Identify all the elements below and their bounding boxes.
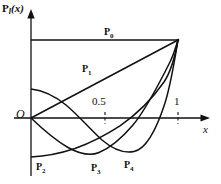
curve-label-p3: P3 [91, 163, 101, 176]
curve-label-p0-sub: 0 [110, 32, 114, 40]
legendre-polynomial-figure: Pl(x) x O 0.5 1 P0 P1 P2 P3 P4 [0, 0, 221, 184]
curve-label-p4: P4 [124, 160, 134, 173]
y-axis-label: Pl(x) [2, 3, 24, 16]
curve-label-p1-sub: 1 [88, 69, 92, 77]
curve-label-p2: P2 [36, 162, 46, 175]
origin-label: O [16, 108, 25, 120]
y-axis-label-arg: (x) [11, 2, 24, 14]
x-tick-label-1: 1 [174, 96, 180, 107]
x-tick-label-0.5: 0.5 [92, 96, 106, 107]
x-axis-label: x [203, 124, 208, 135]
curve-label-p0: P0 [104, 27, 114, 40]
x-axis [14, 114, 210, 121]
curve-label-p3-sub: 3 [97, 168, 101, 176]
curve-label-p4-sub: 4 [130, 165, 134, 173]
curve-label-p1: P1 [82, 64, 92, 77]
y-axis-label-main: P [2, 2, 9, 14]
y-axis [27, 9, 34, 176]
curve-label-p2-sub: 2 [42, 167, 46, 175]
convergence-point [177, 39, 180, 42]
